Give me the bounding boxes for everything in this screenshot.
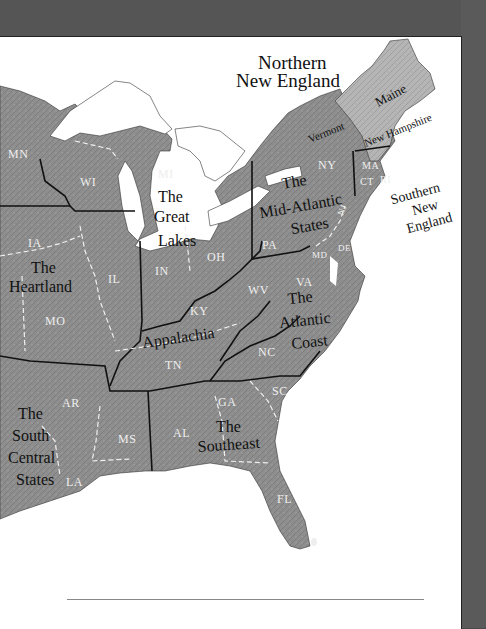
state-sc: SC [272, 384, 288, 398]
state-ia: IA [28, 236, 42, 250]
state-al: AL [173, 426, 190, 440]
south-central-line-4: States [16, 471, 54, 488]
state-mo: MO [45, 314, 65, 328]
title-line-2: New England [236, 70, 340, 91]
state-la: LA [66, 475, 83, 489]
scan-right-margin [461, 0, 486, 628]
heartland-line-2: Heartland [9, 278, 72, 295]
state-nc: NC [258, 345, 276, 359]
state-ri: RI [380, 174, 391, 185]
eastern-us-map: Northern New England Maine Vermont New H… [0, 36, 462, 629]
heartland-line-1: The [31, 259, 56, 276]
state-in: IN [155, 264, 169, 278]
state-ky: KY [190, 304, 208, 318]
state-md: MD [312, 250, 328, 260]
great-lakes-line-2: Great [154, 208, 190, 225]
state-va: VA [296, 275, 313, 289]
map-page: Northern New England Maine Vermont New H… [0, 36, 462, 629]
lake-okeechobee [311, 538, 317, 546]
southeast-line-1: The [216, 418, 241, 435]
state-mn: MN [8, 147, 28, 161]
south-central-line-2: South [12, 427, 49, 444]
state-oh: OH [207, 250, 225, 264]
state-tn: TN [165, 358, 182, 372]
great-lakes-line-1: The [158, 188, 183, 205]
state-ga: GA [218, 395, 236, 409]
state-de: DE [338, 243, 351, 253]
state-ny: NY [318, 158, 336, 172]
scan-top-margin [0, 0, 486, 36]
state-ms: MS [118, 432, 136, 446]
south-central-line-1: The [18, 405, 43, 422]
state-ma: MA [362, 160, 379, 171]
south-central-line-3: Central [8, 449, 56, 466]
state-fl: FL [277, 492, 292, 506]
bottom-rule [67, 599, 424, 600]
region-great-lakes: The Great Lakes [154, 188, 196, 249]
state-wv: WV [248, 283, 269, 297]
state-il: IL [108, 272, 120, 286]
region-southern-new-england: Southern New England [389, 179, 454, 239]
state-ct: CT [360, 176, 374, 187]
great-lakes-line-3: Lakes [158, 232, 196, 249]
state-pa: PA [262, 238, 277, 252]
state-ar: AR [62, 396, 80, 410]
atlantic-coast-line-1: The [287, 288, 314, 308]
state-wi: WI [80, 175, 96, 189]
state-mi: MI [158, 167, 174, 181]
